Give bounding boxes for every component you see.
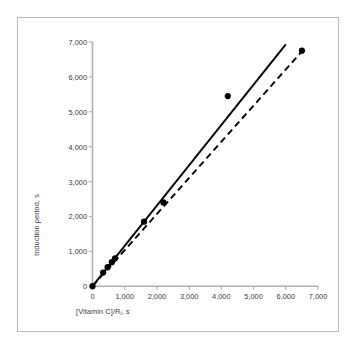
x-tick-label: 4,000	[212, 292, 231, 301]
y-tick-label: 6,000	[42, 72, 87, 81]
y-axis-title: Induction period, s	[32, 194, 41, 256]
data-point	[112, 255, 118, 261]
data-point	[89, 283, 95, 289]
x-tick-label: 7,000	[309, 292, 328, 301]
data-point	[100, 269, 106, 275]
x-axis-title: [Vitamin C]/Ri, s	[76, 307, 130, 316]
dashed-fit-line	[93, 51, 302, 286]
y-tick-label: 2,000	[42, 212, 87, 221]
x-axis-title-main: [Vitamin C]/R	[76, 307, 120, 316]
data-point	[225, 93, 231, 99]
x-tick-label: 3,000	[180, 292, 199, 301]
x-tick-label: 0	[90, 292, 94, 301]
x-tick-label: 2,000	[148, 292, 167, 301]
solid-fit-line	[93, 44, 286, 286]
x-tick-label: 6,000	[277, 292, 296, 301]
y-tick-label: 5,000	[42, 107, 87, 116]
data-point	[299, 48, 305, 54]
y-tick-label: 4,000	[42, 142, 87, 151]
figure: 01,0002,0003,0004,0005,0006,0007,000 01,…	[0, 0, 361, 350]
y-tick-label: 7,000	[42, 38, 87, 47]
x-tick-label: 1,000	[115, 292, 134, 301]
data-point	[141, 219, 147, 225]
fit-lines	[93, 44, 302, 286]
x-tick-label: 5,000	[244, 292, 263, 301]
y-tick-label: 3,000	[42, 177, 87, 186]
data-point	[160, 199, 166, 205]
data-point	[105, 264, 111, 270]
y-tick-label: 1,000	[42, 247, 87, 256]
y-tick-label: 0	[42, 282, 87, 291]
x-axis-title-tail: , s	[122, 307, 130, 316]
